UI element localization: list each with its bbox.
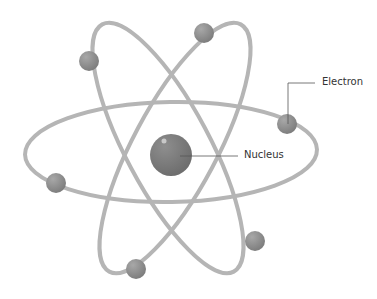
electron <box>245 231 265 251</box>
atom-diagram <box>0 0 377 299</box>
nucleus-label: Nucleus <box>244 149 284 160</box>
nucleus-highlight <box>162 139 167 144</box>
electron-label: Electron <box>322 76 363 87</box>
electron <box>194 23 214 43</box>
electron <box>46 173 66 193</box>
nucleus <box>150 134 192 176</box>
electron <box>277 114 297 134</box>
electron <box>79 51 99 71</box>
electron <box>126 259 146 279</box>
